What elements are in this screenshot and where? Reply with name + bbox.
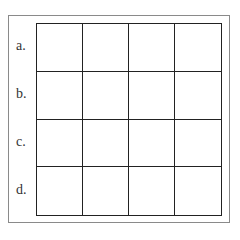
grid-cell-a1[interactable]: [37, 24, 83, 72]
row-label-a: a.: [16, 38, 26, 54]
grid-cell-c3[interactable]: [129, 120, 175, 168]
grid-cell-d3[interactable]: [129, 167, 175, 215]
row-label-d: d.: [16, 182, 27, 198]
row-label-b: b.: [16, 86, 27, 102]
grid-cell-b2[interactable]: [83, 72, 129, 120]
grid-cell-b3[interactable]: [129, 72, 175, 120]
grid-cell-c2[interactable]: [83, 120, 129, 168]
grid-cell-a2[interactable]: [83, 24, 129, 72]
row-label-c: c.: [16, 134, 26, 150]
grid-cell-c1[interactable]: [37, 120, 83, 168]
grid-cell-d1[interactable]: [37, 167, 83, 215]
grid-cell-d2[interactable]: [83, 167, 129, 215]
grid-cell-b1[interactable]: [37, 72, 83, 120]
grid-cell-d4[interactable]: [175, 167, 221, 215]
grid-cell-c4[interactable]: [175, 120, 221, 168]
grid-cell-a3[interactable]: [129, 24, 175, 72]
answer-grid: [36, 23, 222, 216]
grid-cell-b4[interactable]: [175, 72, 221, 120]
grid-cell-a4[interactable]: [175, 24, 221, 72]
